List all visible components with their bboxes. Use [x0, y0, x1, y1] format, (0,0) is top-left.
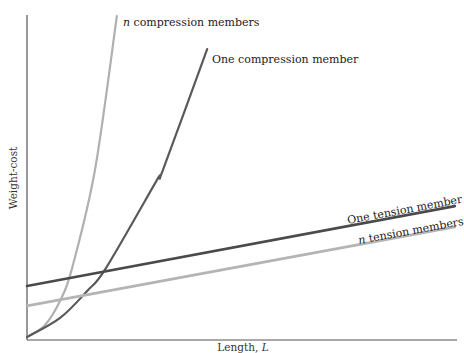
- x-axis-label-var: L: [261, 341, 269, 353]
- chart: n compression members One compression me…: [0, 0, 464, 353]
- x-axis-label-text: Length,: [217, 341, 261, 353]
- label-n-italic: n: [123, 16, 130, 29]
- label-n-compression: n compression members: [123, 16, 260, 29]
- label-one-compression: One compression member: [212, 53, 359, 66]
- series-line-one-compression-member: [27, 49, 207, 337]
- label-n-compression-rest: compression members: [130, 16, 260, 29]
- y-axis-label: Weight-cost: [7, 146, 19, 209]
- x-axis-label: Length, L: [217, 341, 268, 353]
- series-line-n-compression-members: [27, 16, 117, 337]
